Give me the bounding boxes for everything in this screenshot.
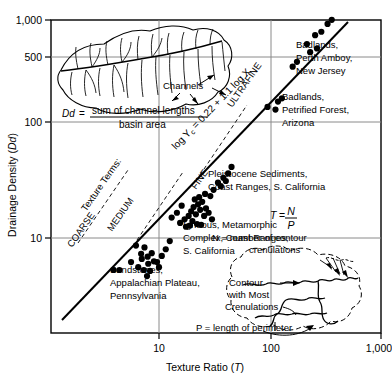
- y-tick-label-1000: 1,000: [16, 14, 42, 26]
- callout-pleistocene-line2: Coast Ranges, S. California: [208, 181, 326, 192]
- data-point: [193, 211, 199, 217]
- y-tick-label-500: 500: [24, 51, 42, 63]
- data-point: [197, 207, 203, 213]
- channels-label: Channels: [163, 80, 203, 91]
- data-point: [133, 243, 139, 249]
- callout-sandstones-line3: Pennsylvania: [110, 290, 167, 301]
- n-definition-line1: N = number of contour: [212, 232, 307, 243]
- data-point: [312, 32, 318, 38]
- dd-formula-denominator: basin area: [119, 119, 166, 130]
- dd-formula-equals: =: [79, 108, 85, 119]
- data-point: [290, 64, 296, 70]
- callout-sandstones-line2: Appalachian Plateau,: [110, 277, 200, 288]
- x-tick-label-100: 100: [262, 342, 280, 354]
- data-point: [272, 106, 278, 112]
- data-point: [264, 104, 270, 110]
- contour-label-line2: with Most: [228, 289, 269, 300]
- callout-badlands-nj-line3: New Jersey: [296, 65, 346, 76]
- callout-igneous-line1: Igneous, Metamorphic: [183, 219, 277, 230]
- y-axis: 1,000 500 100 10: [16, 14, 51, 244]
- callout-badlands-nj-line1: Badlands,: [296, 39, 338, 50]
- data-point: [163, 246, 169, 252]
- data-point: [167, 238, 173, 244]
- callout-sandstones-line1: Sandstones,: [110, 264, 163, 275]
- data-point: [206, 210, 212, 216]
- dd-formula-numerator: sum of channel lengths: [92, 105, 195, 116]
- data-point: [169, 214, 175, 220]
- data-point: [318, 29, 324, 35]
- y-tick-label-100: 100: [24, 116, 42, 128]
- x-axis: 10 100 1,000: [153, 333, 392, 354]
- chart-svg: 1,000 500 100 10 Drainage Density (Dd) 1…: [0, 0, 392, 381]
- data-point: [139, 256, 145, 262]
- formula-equals: =: [279, 209, 285, 221]
- callout-igneous-line3: S. California: [183, 245, 235, 256]
- dd-formula-lhs: Dd: [62, 108, 75, 119]
- data-point: [159, 253, 165, 259]
- data-point: [179, 203, 185, 209]
- drainage-density-texture-ratio-figure: 1,000 500 100 10 Drainage Density (Dd) 1…: [0, 0, 392, 381]
- callout-badlands-az-line1: Badlands,: [282, 91, 324, 102]
- data-point: [207, 193, 213, 199]
- y-tick-label-10: 10: [30, 232, 42, 244]
- data-point: [141, 244, 147, 250]
- data-point: [329, 17, 335, 23]
- svg-text:Drainage Density (Dd): Drainage Density (Dd): [6, 133, 18, 237]
- callout-badlands-az-line2: Petrified Forest,: [282, 104, 349, 115]
- p-definition: P = length of perimeter: [196, 322, 292, 333]
- x-tick-label-10: 10: [153, 342, 165, 354]
- data-point: [196, 194, 202, 200]
- y-axis-title: Drainage Density (Dd): [6, 133, 18, 237]
- formula-n: N: [287, 205, 295, 217]
- data-point: [174, 210, 180, 216]
- contour-label-line1: Contour: [229, 277, 263, 288]
- callout-badlands-az-line3: Arizona: [282, 117, 315, 128]
- x-tick-label-1000: 1,000: [366, 342, 392, 354]
- callout-pleistocene-line1: Pleistocene Sediments,: [208, 168, 307, 179]
- callout-badlands-nj-line2: Perth Amboy,: [296, 52, 352, 63]
- formula-p: P: [287, 219, 294, 231]
- x-axis-title: Texture Ratio (T): [166, 361, 244, 373]
- data-point: [149, 250, 155, 256]
- contour-label-line3: Crenulations: [225, 301, 279, 312]
